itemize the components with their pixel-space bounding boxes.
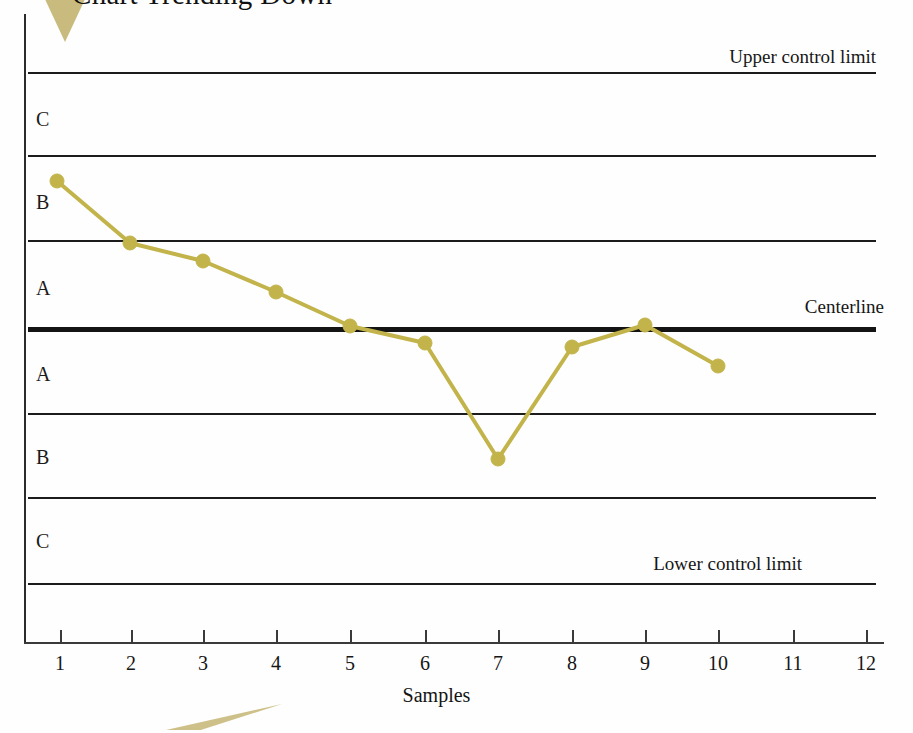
data-point-9[interactable] <box>638 318 652 332</box>
series-line <box>57 181 718 459</box>
data-point-10[interactable] <box>711 359 725 373</box>
control-chart: CBAABC Upper control limit Centerline Lo… <box>0 0 913 733</box>
data-point-7[interactable] <box>491 452 505 466</box>
data-point-5[interactable] <box>343 319 357 333</box>
data-point-3[interactable] <box>196 254 210 268</box>
data-point-4[interactable] <box>269 285 283 299</box>
data-point-2[interactable] <box>123 236 137 250</box>
data-point-1[interactable] <box>50 174 64 188</box>
data-series <box>0 0 913 733</box>
data-point-6[interactable] <box>418 336 432 350</box>
data-point-8[interactable] <box>565 340 579 354</box>
chart-page: Chart Trending Down CBAABC Upper control… <box>0 0 913 733</box>
